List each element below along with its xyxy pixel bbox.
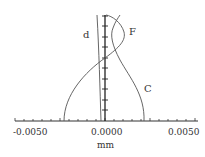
label-d: d bbox=[83, 30, 89, 40]
curve-d bbox=[97, 15, 101, 121]
label-c: C bbox=[144, 84, 152, 94]
xtick-label-right: 0.0050 bbox=[168, 128, 200, 137]
xtick-label-left: -0.0050 bbox=[13, 128, 48, 137]
label-f: F bbox=[129, 27, 136, 37]
xtick-label-mid: 0.0000 bbox=[91, 128, 123, 137]
curve-c bbox=[112, 15, 144, 121]
curve-f bbox=[64, 15, 124, 121]
x-axis-unit: mm bbox=[97, 141, 114, 150]
